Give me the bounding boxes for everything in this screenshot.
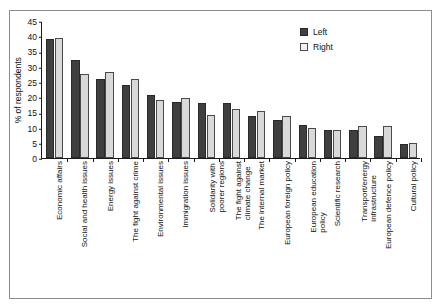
x-axis-category-label-line: European foreign policy bbox=[283, 161, 292, 245]
y-axis-tick-label: 25 bbox=[28, 79, 42, 88]
bar-right bbox=[80, 74, 88, 158]
chart-legend: LeftRight bbox=[300, 28, 333, 57]
x-axis-category-label: Scientific research bbox=[334, 161, 343, 226]
bar-group bbox=[93, 22, 118, 158]
bar-left bbox=[273, 120, 281, 158]
bar-right bbox=[156, 100, 164, 158]
y-axis-tick-label: 45 bbox=[28, 18, 42, 27]
bar-left bbox=[71, 60, 79, 158]
bar-left bbox=[198, 103, 206, 158]
legend-item: Left bbox=[300, 28, 333, 37]
bar-series-container bbox=[42, 22, 420, 158]
bar-right bbox=[232, 109, 240, 158]
y-axis-tick-label: 30 bbox=[28, 63, 42, 72]
bar-group bbox=[244, 22, 269, 158]
bar-right bbox=[333, 130, 341, 158]
bar-left bbox=[147, 95, 155, 158]
bar-right bbox=[131, 79, 139, 158]
x-axis-category-label-line: Immigration issues bbox=[181, 161, 190, 228]
bar-group bbox=[143, 22, 168, 158]
x-axis-category-label: European educationpolicy bbox=[310, 161, 327, 233]
x-axis-category-label: The internal market bbox=[258, 161, 267, 230]
figure: % of respondents 051015202530354045 Econ… bbox=[0, 0, 441, 308]
bar-left bbox=[172, 102, 180, 158]
bar-group bbox=[42, 22, 67, 158]
bar-group bbox=[168, 22, 193, 158]
legend-label: Right bbox=[313, 43, 333, 52]
bar-group bbox=[118, 22, 143, 158]
y-axis-tick-label: 40 bbox=[28, 33, 42, 42]
bar-left bbox=[400, 144, 408, 158]
y-axis-title-text: % of respondents bbox=[14, 57, 23, 123]
bar-right bbox=[308, 128, 316, 158]
bar-right bbox=[409, 143, 417, 158]
bar-group bbox=[194, 22, 219, 158]
x-axis-category-label: Economic affairs bbox=[56, 161, 65, 220]
x-axis-category-label: Energy issues bbox=[107, 161, 116, 211]
x-axis-category-label-line: poorer regions bbox=[218, 161, 227, 213]
bar-right bbox=[207, 115, 215, 158]
x-axis-category-label-line: Economic affairs bbox=[55, 161, 64, 220]
x-axis-category-label: The fight against crime bbox=[132, 161, 141, 242]
x-axis-category-label-line: The fight against crime bbox=[131, 161, 140, 242]
x-axis-category-label-line: Scientific research bbox=[333, 161, 342, 226]
bar-group bbox=[219, 22, 244, 158]
bar-left bbox=[349, 130, 357, 158]
bar-right bbox=[358, 126, 366, 158]
x-axis-category-label-line: Cultural policy bbox=[409, 161, 418, 211]
legend-label: Left bbox=[313, 28, 327, 37]
x-axis-category-label-line: climate change bbox=[243, 161, 252, 220]
y-axis-title: % of respondents bbox=[12, 22, 24, 159]
bar-left bbox=[122, 85, 130, 158]
x-axis-category-label-line: European defence policy bbox=[384, 161, 393, 249]
bar-left bbox=[96, 79, 104, 158]
y-axis-tick-label: 15 bbox=[28, 109, 42, 118]
legend-swatch-dark bbox=[300, 28, 308, 36]
bar-group bbox=[370, 22, 395, 158]
x-axis-category-label-line: Energy issues bbox=[106, 161, 115, 211]
bar-left bbox=[324, 130, 332, 158]
x-axis-category-label: Cultural policy bbox=[410, 161, 419, 211]
x-axis-category-label-line: The fight against bbox=[235, 161, 244, 220]
x-axis-category-label: Immigration issues bbox=[182, 161, 191, 228]
x-axis-category-label-line: policy bbox=[319, 161, 328, 233]
x-axis-category-labels: Economic affairsSocial and health issues… bbox=[41, 161, 420, 291]
bar-right bbox=[383, 126, 391, 158]
bar-right bbox=[257, 111, 265, 158]
y-axis-tick-label: 10 bbox=[28, 124, 42, 133]
legend-item: Right bbox=[300, 43, 333, 52]
y-axis-tick-label: 20 bbox=[28, 94, 42, 103]
bar-left bbox=[248, 116, 256, 158]
bar-right bbox=[55, 38, 63, 158]
y-axis-tick-label: 35 bbox=[28, 48, 42, 57]
bar-left bbox=[374, 136, 382, 158]
bar-group bbox=[345, 22, 370, 158]
x-axis-category-label-line: Environmental issues bbox=[156, 161, 165, 237]
bar-left bbox=[46, 39, 54, 158]
x-axis-category-label: Transport/energyinfrastructure bbox=[361, 161, 378, 222]
x-axis-category-label-line: infrastructure bbox=[369, 161, 378, 222]
x-axis-category-label-line: Social and health issues bbox=[80, 161, 89, 247]
bar-right bbox=[105, 72, 113, 158]
plot-area: 051015202530354045 bbox=[41, 22, 420, 159]
bar-group bbox=[396, 22, 421, 158]
x-axis-category-label-line: The internal market bbox=[257, 161, 266, 230]
bar-group bbox=[67, 22, 92, 158]
bar-left bbox=[299, 125, 307, 158]
bar-right bbox=[282, 116, 290, 158]
x-axis-category-label: European defence policy bbox=[385, 161, 394, 249]
bar-right bbox=[181, 98, 189, 158]
legend-swatch-light bbox=[300, 43, 308, 51]
x-axis-category-label: Environmental issues bbox=[157, 161, 166, 237]
bar-group bbox=[269, 22, 294, 158]
x-axis-category-label: European foreign policy bbox=[284, 161, 293, 245]
x-axis-category-label: The fight againstclimate change bbox=[235, 161, 252, 220]
x-axis-category-label: Social and health issues bbox=[81, 161, 90, 247]
bar-left bbox=[223, 103, 231, 158]
x-axis-category-label: Solidarity withpoorer regions bbox=[209, 161, 226, 213]
y-axis-tick-label: 5 bbox=[32, 140, 42, 149]
x-axis-tick bbox=[421, 158, 422, 162]
